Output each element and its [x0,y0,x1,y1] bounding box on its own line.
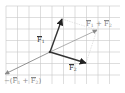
label-negative-sum: −(F1 + F2) [4,78,41,86]
grid-lines [6,6,120,84]
origin-point [49,51,52,54]
label-f1-plus-f2: F1 + F2 [86,21,112,29]
force-vectors [5,19,97,74]
label-f2: F2 [69,65,77,73]
vector-neg-f1-plus-f2 [5,52,50,74]
vector-f2 [50,52,86,63]
label-f1: F1 [37,37,45,45]
construction-line [86,30,97,63]
